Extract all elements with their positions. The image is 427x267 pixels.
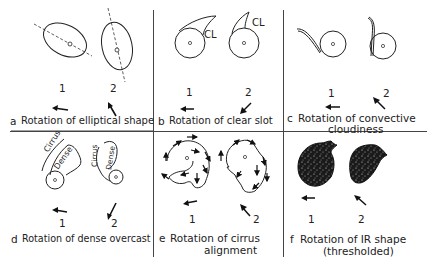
elliptical-shape-diagram — [0, 0, 153, 131]
caption-letter: d — [11, 233, 18, 245]
caption-text: Rotation of clear slot — [169, 115, 273, 127]
arrow-left-icon — [325, 104, 340, 110]
caption-letter: c — [287, 112, 293, 124]
arrow-left-icon — [183, 200, 197, 206]
convective-cell-2-icon — [368, 17, 396, 59]
dense-overcast-diagram — [0, 131, 153, 267]
caption-text: Rotation of cirrus — [170, 232, 260, 244]
cl-annotation-1: CL — [204, 29, 217, 40]
label-1: 1 — [59, 82, 66, 94]
caption-letter: a — [10, 115, 16, 127]
ellipse-1-icon — [34, 16, 92, 64]
caption-text: Rotation of elliptical shape — [21, 115, 154, 127]
arrow-left-icon — [301, 195, 315, 201]
caption-text: Rotation of dense overcast — [22, 233, 151, 245]
label-1: 1 — [328, 87, 335, 99]
arrow-down-left-icon — [240, 103, 251, 114]
cirrus-pattern-1-icon — [162, 137, 210, 188]
label-1: 1 — [59, 217, 66, 229]
cirrus-pattern-2-icon — [221, 140, 267, 192]
label-1: 1 — [189, 213, 196, 225]
ir-shape-2-icon — [350, 145, 387, 183]
label-2: 2 — [253, 213, 260, 225]
arrow-up-left-icon — [108, 102, 116, 116]
caption-text-line2: alignment — [204, 244, 257, 256]
arrow-up-left-icon — [354, 195, 366, 205]
arrow-up-left-icon — [240, 204, 250, 216]
caption-letter: e — [159, 232, 165, 244]
label-1: 1 — [186, 86, 193, 98]
panel-c-convective-cloudiness: 1 2 c Rotation of convective cloudiness — [283, 0, 427, 131]
caption-text-line2: (thresholded) — [323, 245, 394, 257]
panel-b-clear-slot: CL CL 1 2 b Rotation of clear slot — [153, 0, 283, 131]
panel-e-cirrus-alignment: 1 2 e Rotation of cirrus alignment — [153, 131, 283, 267]
convective-cell-1-icon — [297, 29, 346, 57]
label-2: 2 — [383, 87, 390, 99]
label-2: 2 — [358, 213, 365, 225]
caption-text: Rotation of IR shape — [300, 233, 406, 245]
label-1: 1 — [308, 213, 315, 225]
caption-letter: b — [158, 115, 165, 127]
panel-a-elliptical-shape: 1 2 a Rotation of elliptical shape — [0, 0, 153, 131]
panel-f-ir-shape: 1 2 f Rotation of IR shape (thresholded) — [283, 131, 427, 267]
label-2: 2 — [111, 217, 118, 229]
label-2: 2 — [245, 86, 252, 98]
caption-letter: f — [290, 233, 294, 245]
cirrus-annotation-2: Cirrus — [90, 144, 99, 167]
cl-annotation-2: CL — [252, 17, 265, 28]
panel-d-dense-overcast: Cirrus Dense Cirrus Dense 1 2 d Rotation… — [0, 131, 153, 267]
ir-shape-1-icon — [298, 141, 337, 186]
arrow-left-icon — [52, 207, 67, 213]
ellipse-2-icon — [97, 8, 136, 82]
label-2: 2 — [110, 82, 117, 94]
arrow-left-icon — [52, 105, 68, 111]
arrow-left-icon — [180, 106, 194, 112]
